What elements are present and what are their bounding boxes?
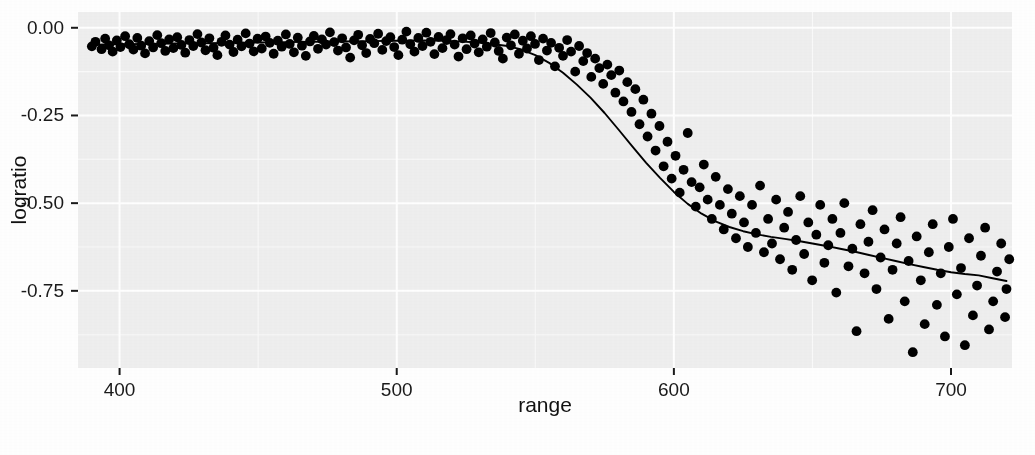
x-tick-label: 500 — [381, 379, 413, 400]
x-tick-label: 600 — [658, 379, 690, 400]
y-tick-label: 0.00 — [27, 17, 64, 38]
plot-panel-background — [78, 12, 1012, 368]
scatter-plot-canvas: 400500600700 0.00-0.25-0.50-0.75 range l… — [0, 0, 1035, 455]
y-axis-ticks — [71, 28, 78, 291]
y-tick-label: -0.75 — [21, 280, 64, 301]
x-tick-label: 700 — [935, 379, 967, 400]
chart-figure: 400500600700 0.00-0.25-0.50-0.75 range l… — [0, 0, 1035, 455]
y-axis-title: logratio — [7, 156, 30, 225]
x-axis-ticks — [120, 368, 951, 375]
x-tick-label: 400 — [104, 379, 136, 400]
x-axis-title: range — [518, 393, 572, 416]
y-tick-label: -0.25 — [21, 104, 64, 125]
